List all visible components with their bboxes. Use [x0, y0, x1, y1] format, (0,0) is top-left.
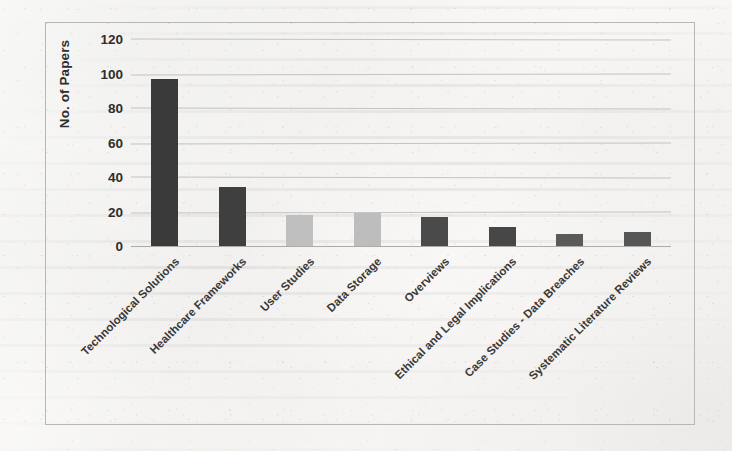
plot-area: 020406080100120 [131, 39, 671, 246]
y-tick-label: 0 [77, 239, 123, 254]
x-tick-label: Case Studies - Data Breaches [462, 255, 586, 379]
x-tick-label: Data Storage [325, 255, 384, 314]
y-tick-label: 120 [77, 32, 123, 47]
bar-series [131, 39, 671, 246]
axis-baseline [131, 246, 671, 247]
x-tick-label: Systematic Literature Reviews [527, 255, 654, 382]
figure-border: No. of Papers 020406080100120 Technologi… [45, 22, 695, 425]
bar [556, 234, 583, 246]
x-tick-label: Overviews [402, 255, 451, 304]
bar [219, 187, 246, 246]
y-axis-title: No. of Papers [57, 4, 75, 164]
bar [489, 227, 516, 246]
y-tick-label: 60 [77, 135, 123, 150]
x-tick-label: User Studies [258, 255, 317, 314]
bar-chart: No. of Papers 020406080100120 Technologi… [46, 23, 694, 424]
y-tick-label: 20 [77, 204, 123, 219]
bar [151, 79, 178, 246]
bar [624, 232, 651, 246]
bar [354, 213, 381, 246]
x-tick-label: Ethical and Legal Implications [393, 255, 519, 381]
bar [286, 215, 313, 246]
x-axis-category-labels: Technological SolutionsHealthcare Framew… [131, 255, 671, 423]
bar [421, 217, 448, 246]
y-tick-label: 40 [77, 170, 123, 185]
y-tick-label: 100 [77, 66, 123, 81]
y-tick-label: 80 [77, 101, 123, 116]
